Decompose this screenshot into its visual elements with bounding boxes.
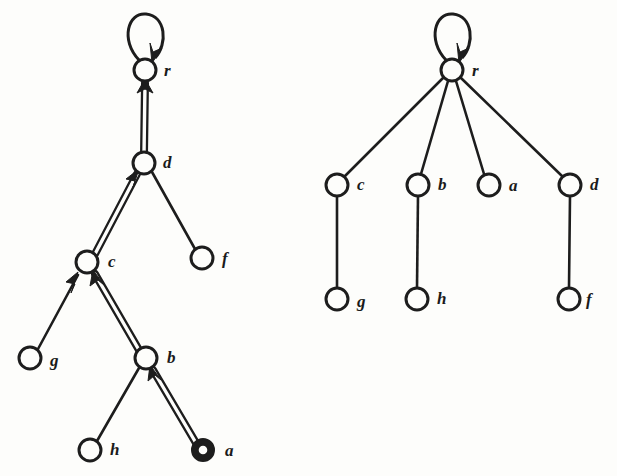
left-node-c[interactable]: c xyxy=(76,251,116,273)
right-node-r[interactable]: r xyxy=(441,59,479,81)
right-node-g[interactable]: g xyxy=(326,288,366,311)
right-node-c-label: c xyxy=(357,175,365,194)
left-node-b[interactable]: b xyxy=(135,347,176,369)
right-node-f-label: f xyxy=(586,290,594,309)
left-node-f[interactable]: f xyxy=(191,247,230,269)
left-node-f-label: f xyxy=(222,249,230,268)
left-edge-c-to-d-highlighted xyxy=(95,169,139,254)
right-node-d[interactable]: d xyxy=(559,174,599,196)
left-node-a[interactable]: a xyxy=(192,439,234,461)
right-node-a[interactable]: a xyxy=(478,174,518,196)
right-node-a-label: a xyxy=(509,176,518,195)
left-node-c-label: c xyxy=(108,252,116,271)
left-node-r-label: r xyxy=(164,61,171,80)
left-edge-h-to-b xyxy=(97,368,139,441)
graph-figure-svg: r d c f g b h xyxy=(0,0,617,476)
left-node-h[interactable]: h xyxy=(79,439,119,461)
right-panel-rooted-tree: r c b a d g h xyxy=(326,14,599,311)
left-node-r[interactable]: r xyxy=(134,59,171,81)
figure-root: r d c f g b h xyxy=(0,0,617,476)
left-node-g[interactable]: g xyxy=(19,347,59,370)
right-node-h-label: h xyxy=(437,289,446,308)
right-node-c[interactable]: c xyxy=(326,174,365,196)
right-node-b[interactable]: b xyxy=(407,174,447,196)
left-node-a-label: a xyxy=(225,441,234,460)
left-edge-d-to-r-highlighted xyxy=(137,79,153,154)
left-edge-g-to-c xyxy=(38,272,78,349)
left-node-g-label: g xyxy=(49,351,59,370)
left-edge-b-to-c-highlighted xyxy=(90,270,139,350)
arrowhead-g-to-c xyxy=(66,272,78,293)
left-edge-r-self-loop xyxy=(128,14,163,63)
right-node-r-label: r xyxy=(472,61,479,80)
right-node-h[interactable]: h xyxy=(406,288,446,310)
left-node-b-label: b xyxy=(167,348,176,367)
right-edge-r-to-c xyxy=(345,78,443,176)
right-node-g-label: g xyxy=(356,292,366,311)
left-edge-a-to-b-highlighted xyxy=(148,365,196,443)
right-edge-d-to-f xyxy=(569,196,570,288)
left-edge-d-to-f xyxy=(152,172,195,249)
left-node-d-label: d xyxy=(163,153,172,172)
left-node-h-label: h xyxy=(110,440,119,459)
right-edge-r-to-d xyxy=(461,78,562,176)
right-node-b-label: b xyxy=(438,175,447,194)
right-node-f[interactable]: f xyxy=(558,288,594,310)
right-edge-b-to-h xyxy=(417,196,418,288)
right-node-d-label: d xyxy=(590,175,599,194)
left-node-d[interactable]: d xyxy=(133,152,172,174)
left-panel-directed-graph: r d c f g b h xyxy=(19,14,234,461)
right-edge-r-self-loop xyxy=(435,14,470,63)
